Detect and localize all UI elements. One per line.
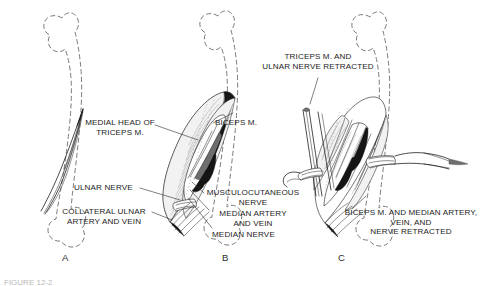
panel-c-illustration (283, 12, 468, 246)
anatomy-figure: MEDIAL HEAD OF TRICEPS M. ULNAR NERVE CO… (0, 0, 494, 286)
distal-tip-c (325, 223, 338, 237)
panel-a-illustration (41, 13, 86, 247)
leader-triceps-ulnar-retracted (310, 78, 318, 104)
distal-tip-b (170, 222, 184, 236)
panel-b-illustration (163, 11, 242, 245)
panel-letter-a: A (62, 252, 69, 263)
figure-illustration (0, 0, 494, 286)
septum-spindle-a (41, 109, 83, 211)
panel-letter-b: B (222, 252, 229, 263)
panel-letter-c: C (338, 252, 345, 263)
figure-caption: FIGURE 12-2 (4, 278, 52, 286)
